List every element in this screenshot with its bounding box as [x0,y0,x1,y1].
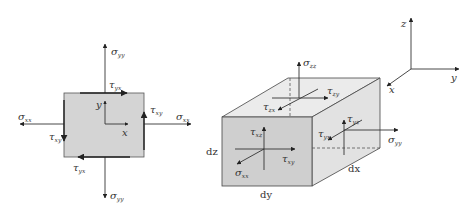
label-tau-yx-bottom: τyx [73,162,86,175]
label-axis-y: y [95,99,102,110]
label-axis-z: z [400,18,407,29]
label-axis-x: x [122,127,128,138]
label-sigma-xx-left: σxx [18,111,32,123]
plane-stress-element: σyy τyx y x τxy σxx σxx τxy τyx σyy [18,44,191,203]
label-sigma-yy: σyy [388,134,402,147]
cube-stress-element: σzz τzy τzx τxz τxy σxx τyz τyx σyy dz d… [206,57,402,200]
label-tau-xy-left: τxy [49,131,62,144]
label-tau-yx-top: τyx [109,79,122,92]
label-sigma-yy-top: σyy [111,46,125,59]
element-square [64,93,144,157]
stress-element-diagram: σyy τyx y x τxy σxx σxx τxy τyx σyy [0,0,476,213]
label-sigma-yy-bottom: σyy [110,190,124,203]
label-dz: dz [206,146,218,157]
coordinate-axes: z y x [387,18,459,95]
label-axis-x3d: x [389,84,395,95]
label-dx: dx [348,163,360,174]
label-sigma-xx-right: σxx [176,111,190,123]
label-dy: dy [260,189,272,200]
label-axis-y3d: y [450,72,457,83]
label-sigma-zz: σzz [303,57,317,69]
label-tau-xy-right: τxy [150,104,163,117]
